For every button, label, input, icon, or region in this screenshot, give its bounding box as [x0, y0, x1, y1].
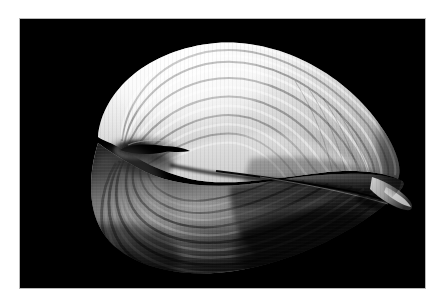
- photo-frame: [20, 19, 425, 288]
- page-root: Monochrome close-up photograph of a ribb…: [0, 0, 446, 304]
- seashell-photograph: [20, 19, 425, 288]
